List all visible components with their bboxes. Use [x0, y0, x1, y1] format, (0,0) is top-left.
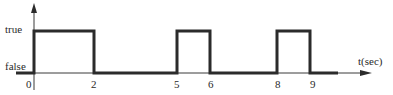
x-tick-0: 0 [26, 78, 32, 90]
x-tick-5: 5 [174, 78, 180, 90]
y-label-false: false [5, 60, 26, 72]
x-axis-label: t(sec) [358, 55, 383, 68]
x-tick-9: 9 [310, 78, 316, 90]
y-axis-arrow-icon [31, 3, 37, 13]
x-tick-2: 2 [91, 78, 97, 90]
x-tick-6: 6 [208, 78, 214, 90]
step-chart: true false 0 2 5 6 8 9 t(sec) [0, 0, 393, 95]
y-label-true: true [5, 23, 22, 35]
signal-line [16, 31, 338, 73]
x-axis-arrow-icon [360, 70, 372, 76]
x-tick-8: 8 [275, 78, 281, 90]
